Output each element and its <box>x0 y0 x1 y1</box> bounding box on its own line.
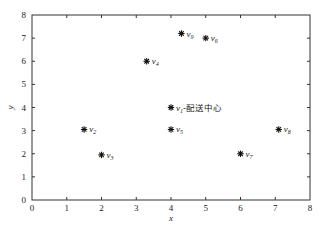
x-tick-label: 3 <box>134 203 139 213</box>
scatter-chart: 012345678 012345678 x y v1-配送中心v2v3v4v5v… <box>0 0 322 234</box>
x-axis-label: x <box>168 213 173 223</box>
asterisk-marker-icon <box>178 30 184 36</box>
x-tick-label: 5 <box>204 203 209 213</box>
data-point-v8: v8 <box>276 124 291 135</box>
asterisk-marker-icon <box>237 151 243 157</box>
y-tick-label: 6 <box>22 56 27 66</box>
x-tick-label: 8 <box>308 203 313 213</box>
point-label: v9 <box>186 29 193 40</box>
data-points: v1-配送中心v2v3v4v5v6v7v8v9 <box>81 29 291 161</box>
y-tick-label: 8 <box>22 10 27 20</box>
y-axis-ticks: 012345678 <box>22 10 311 205</box>
data-point-v2: v2 <box>81 124 96 135</box>
point-label: v7 <box>246 149 254 160</box>
data-point-v3: v3 <box>98 150 113 161</box>
x-tick-label: 2 <box>99 203 104 213</box>
point-label: v5 <box>176 124 183 135</box>
y-tick-label: 5 <box>22 79 27 89</box>
asterisk-marker-icon <box>81 126 87 132</box>
x-tick-label: 1 <box>65 203 70 213</box>
x-tick-label: 7 <box>273 203 278 213</box>
data-point-v4: v4 <box>143 56 158 67</box>
x-tick-label: 0 <box>30 203 35 213</box>
point-label: v8 <box>284 124 291 135</box>
y-tick-label: 3 <box>22 126 27 136</box>
point-label: v6 <box>211 33 218 44</box>
y-tick-label: 7 <box>22 33 27 43</box>
y-tick-label: 1 <box>22 172 27 182</box>
data-point-v6: v6 <box>203 33 218 44</box>
y-tick-label: 4 <box>22 103 27 113</box>
point-label: v1-配送中心 <box>176 103 222 114</box>
data-point-v7: v7 <box>237 149 253 160</box>
point-label: v4 <box>152 56 159 67</box>
asterisk-marker-icon <box>143 58 149 64</box>
asterisk-marker-icon <box>168 126 174 132</box>
data-point-v5: v5 <box>168 124 183 135</box>
data-point-v1: v1-配送中心 <box>168 103 222 114</box>
y-tick-label: 2 <box>22 149 27 159</box>
point-label: v2 <box>89 124 96 135</box>
asterisk-marker-icon <box>98 152 104 158</box>
y-tick-label: 0 <box>22 195 27 205</box>
x-tick-label: 4 <box>169 203 174 213</box>
data-point-v9: v9 <box>178 29 193 40</box>
asterisk-marker-icon <box>168 104 174 110</box>
y-axis-label: y <box>5 106 15 111</box>
asterisk-marker-icon <box>276 126 282 132</box>
point-label: v3 <box>107 150 114 161</box>
asterisk-marker-icon <box>203 35 209 41</box>
x-tick-label: 6 <box>238 203 243 213</box>
x-axis-ticks: 012345678 <box>30 15 313 213</box>
